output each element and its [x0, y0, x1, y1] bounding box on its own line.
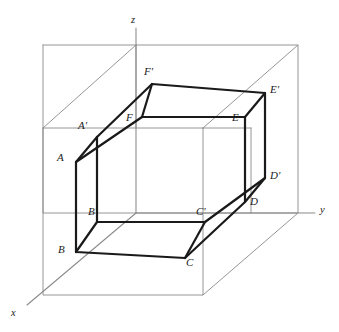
box-front-plane: [43, 128, 203, 295]
vertex-label-C: C: [186, 257, 193, 268]
vertex-label-E-prime: E': [270, 84, 279, 95]
vertex-label-D-prime: D': [270, 170, 280, 181]
figure-canvas: [0, 0, 339, 332]
vertex-label-A: A: [57, 152, 64, 163]
box-edge-bottom-right: [203, 213, 298, 295]
vertex-label-F: F: [126, 112, 133, 123]
edge-C-Cprime: [185, 222, 205, 258]
hexagon-top-primed: [97, 84, 265, 222]
vertex-label-A-prime: A': [78, 120, 87, 131]
axis-label-x: x: [11, 308, 16, 319]
hexagon-front-unprimed: [76, 117, 245, 258]
vertex-label-F-prime: F': [144, 66, 153, 77]
vertex-label-C-prime: C': [196, 206, 206, 217]
box-edge-top-left: [43, 45, 136, 128]
vertex-label-D: D: [250, 196, 258, 207]
edge-E-Eprime: [245, 93, 265, 117]
edge-B-Bprime: [76, 222, 97, 252]
axis-label-z: z: [131, 15, 135, 26]
box-edge-top-right: [203, 45, 298, 128]
vertex-label-E: E: [232, 112, 239, 123]
axes-group: [27, 28, 315, 305]
vertex-label-B-prime: B': [88, 206, 97, 217]
vertex-label-B: B: [58, 244, 65, 255]
axis-label-y: y: [320, 205, 325, 216]
geometry-figure: F' E' D' C' B' A' F E D C B A x y z: [0, 0, 339, 332]
